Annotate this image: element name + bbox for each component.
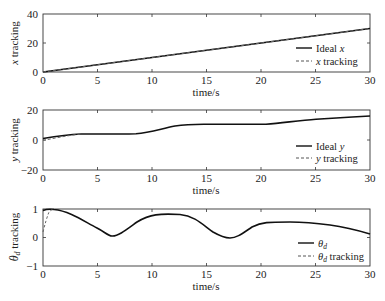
theta-d-line [43,209,370,238]
x-tick-label: 30 [365,268,377,280]
x-axis-label: time/s [193,86,220,98]
x-tick-label: 25 [310,268,322,280]
x-tick-label: 10 [147,268,159,280]
y-tick-label: 40 [27,8,39,20]
y-tick-label: 0 [33,66,39,78]
x-tick-label: 0 [40,268,46,280]
x-tick-label: 15 [201,172,213,184]
ideal-y-line [43,116,370,139]
plot-theta-d-tracking: 1 0 −1 0 5 10 15 20 25 30 time/s θd trac… [7,203,376,292]
y-tick-label: 1 [33,203,39,215]
x-tick-label: 10 [147,74,159,86]
x-tick-label: 15 [201,74,213,86]
x-tick-label: 20 [256,74,268,86]
y-axis-label: θd tracking [7,212,22,261]
x-tick-label: 20 [256,172,268,184]
x-tick-label: 25 [310,172,322,184]
x-tick-label: 5 [95,74,101,86]
plot-y-tracking: 20 0 −20 0 5 10 15 20 25 30 time/s y tra… [8,104,376,196]
legend: Ideal x x tracking [296,43,358,67]
x-tick-label: 0 [40,74,46,86]
x-tick-label: 30 [365,172,377,184]
legend-x-tracking: x tracking [315,56,358,67]
x-tick-label: 10 [147,172,159,184]
plot-x-tracking: 40 20 0 0 5 10 15 20 25 30 time/s x trac… [8,8,376,98]
y-tick-label: 0 [33,134,39,146]
legend-ideal-x: Ideal x [316,43,345,54]
x-tick-label: 25 [310,74,322,86]
legend: θd θd tracking [298,238,365,264]
y-tick-label: 20 [27,37,39,49]
legend-ideal-y: Ideal y [316,141,345,152]
y-tick-label: −1 [26,260,38,272]
legend-y-tracking: y tracking [315,153,358,164]
figure: 40 20 0 0 5 10 15 20 25 30 time/s x trac… [0,0,385,301]
x-tick-label: 5 [95,268,101,280]
y-tick-label: 20 [27,104,39,116]
legend-theta-d-tracking: θd tracking [318,251,365,264]
y-tick-label: −20 [21,164,39,176]
y-tick-label: 0 [33,231,39,243]
legend: Ideal y y tracking [296,141,358,164]
y-axis-label: y tracking [8,118,20,163]
y-axis-label: x tracking [8,21,20,66]
x-axis-label: time/s [193,184,220,196]
x-tick-label: 5 [95,172,101,184]
x-tick-label: 30 [365,74,377,86]
x-tick-label: 0 [40,172,46,184]
theta-d-tracking-line [43,210,54,233]
legend-theta-d: θd [318,238,327,251]
x-tick-label: 15 [201,268,213,280]
x-tick-label: 20 [256,268,268,280]
x-axis-label: time/s [193,280,220,292]
